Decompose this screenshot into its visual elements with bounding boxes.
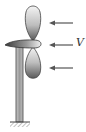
diagram-canvas: V	[0, 0, 86, 132]
arrow-icon	[49, 21, 73, 26]
hub	[5, 40, 41, 48]
turbine-diagram	[0, 0, 86, 132]
velocity-label: V	[76, 37, 84, 49]
tower	[16, 46, 23, 122]
arrow-icon	[49, 66, 73, 71]
wind-arrows	[49, 21, 73, 71]
arrow-icon	[49, 43, 73, 48]
upper-blade	[25, 6, 40, 41]
ground-support	[10, 122, 30, 127]
lower-blade	[25, 47, 40, 78]
